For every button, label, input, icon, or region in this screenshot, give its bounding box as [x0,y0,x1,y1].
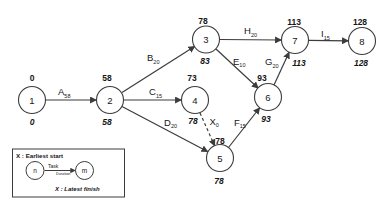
edge-A-label: A58 [58,86,70,99]
node-8-earliest-start: 128 [353,17,367,27]
legend-duration-label: Duration [56,172,70,176]
legend: X : Earliest start n m Task Duration X :… [13,149,125,197]
node-3: 3 78 83 [193,16,220,66]
node-7-earliest-start: 113 [287,17,301,27]
edge-H-label: H20 [244,25,257,38]
node-6-earliest-start: 93 [257,73,267,83]
node-4: 4 73 78 [182,73,209,126]
node-8: 8 128 128 [349,17,376,69]
node-2-latest-finish: 58 [102,117,112,127]
edge-I-label: I15 [321,28,330,41]
edge-E-label: E10 [233,56,245,69]
node-6: 6 93 93 [255,73,282,124]
node-4-id: 4 [192,95,197,106]
edge-E: E10 [216,49,258,88]
node-5-earliest-start: 78 [215,136,225,146]
node-1-id: 1 [29,95,34,106]
node-5-id: 5 [217,153,222,164]
edge-C-label: C15 [149,86,162,99]
node-3-id: 3 [203,34,208,45]
node-8-latest-finish: 128 [354,58,368,68]
node-6-id: 6 [265,92,270,103]
legend-task-label: Task [48,163,59,169]
node-1-earliest-start: 0 [30,73,35,83]
edge-H: H20 [220,25,282,40]
node-4-earliest-start: 73 [187,73,197,83]
edge-F: F15 [229,108,260,148]
node-1: 1 0 0 [19,73,46,127]
node-1-latest-finish: 0 [30,117,35,127]
node-7-id: 7 [292,35,297,46]
diagram-svg: A58 B20 C15 D20 E10 F15 G20 H20 I15 X0 1… [0,0,384,210]
edge-B: B20 [122,47,195,93]
node-3-earliest-start: 78 [198,16,208,26]
node-2: 2 58 58 [97,73,124,127]
edge-I: I15 [309,28,349,41]
edge-G-label: G20 [265,56,279,69]
node-8-id: 8 [359,36,364,47]
node-5: 5 78 78 [207,136,234,186]
edge-C: C15 [124,86,181,100]
node-7-latest-finish: 113 [292,58,306,68]
edge-G: G20 [265,53,289,86]
node-2-earliest-start: 58 [102,73,112,83]
activity-network-diagram: A58 B20 C15 D20 E10 F15 G20 H20 I15 X0 1… [0,0,384,210]
legend-title: X : Earliest start [16,152,63,159]
edge-B-label: B20 [147,52,159,65]
node-6-latest-finish: 93 [261,114,271,124]
node-5-latest-finish: 78 [214,176,224,186]
node-3-latest-finish: 83 [200,56,210,66]
edge-X-label: X0 [210,116,219,129]
edge-D-label: D20 [164,117,177,130]
edge-A: A58 [46,86,96,100]
legend-start-node-label: n [33,167,37,174]
node-4-latest-finish: 78 [188,116,198,126]
edge-F-label: F15 [234,117,246,130]
node-2-id: 2 [107,95,112,106]
legend-end-node-label: m [82,167,87,174]
legend-footer: X : Latest finish [54,186,100,192]
